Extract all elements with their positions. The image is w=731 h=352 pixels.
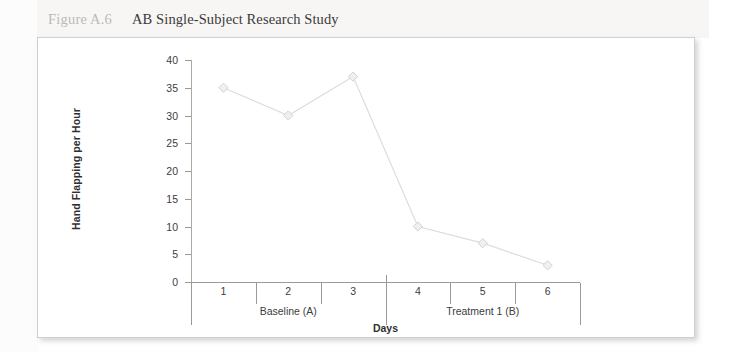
data-point-marker (413, 222, 422, 231)
series-line (223, 77, 547, 266)
x-axis-day-label: 1 (191, 286, 256, 297)
data-point-marker (478, 239, 487, 248)
x-grid-right-edge (580, 283, 581, 325)
phase-divider-line (386, 275, 387, 325)
x-axis-day-label: 6 (515, 286, 580, 297)
data-point-marker (219, 83, 228, 92)
figure-number-label: Figure A.6 (48, 11, 112, 28)
data-point-marker (543, 261, 552, 270)
x-axis-day-label: 5 (450, 286, 515, 297)
phase-label: Baseline (A) (191, 306, 386, 317)
x-axis-day-label: 4 (386, 286, 451, 297)
figure-title-label: AB Single-Subject Research Study (132, 11, 339, 28)
x-axis-day-label: 2 (256, 286, 321, 297)
chart-panel: 0510152025303540 Hand Flapping per Hour … (37, 37, 695, 338)
figure-caption: Figure A.6 AB Single-Subject Research St… (48, 11, 339, 31)
phase-label: Treatment 1 (B) (386, 306, 581, 317)
data-point-marker (348, 72, 357, 81)
page-margin (0, 0, 38, 352)
x-axis-day-label: 3 (321, 286, 386, 297)
plot-area: 0510152025303540 Hand Flapping per Hour … (38, 38, 696, 339)
figure-page: Figure A.6 AB Single-Subject Research St… (0, 0, 731, 352)
x-axis-phase-grid: 123456Baseline (A)Treatment 1 (B) (191, 283, 580, 325)
x-axis-title: Days (191, 322, 580, 334)
data-point-marker (284, 111, 293, 120)
series-markers (219, 72, 552, 270)
